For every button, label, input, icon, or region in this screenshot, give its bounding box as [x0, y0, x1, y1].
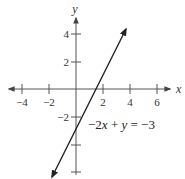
y-tick-label: 4: [64, 28, 70, 40]
x-tick-label: 6: [154, 96, 160, 108]
plotted-line: [52, 29, 126, 177]
x-tick-label: 4: [127, 96, 133, 108]
x-tick-label: −4: [16, 96, 28, 108]
x-tick-label: 2: [100, 96, 106, 108]
equation-label: −2x + y = −3: [88, 117, 155, 132]
y-tick-label: 2: [64, 56, 70, 68]
x-tick-label: −2: [43, 96, 55, 108]
y-tick-label: −2: [57, 111, 69, 123]
x-axis-label: x: [175, 82, 182, 96]
coordinate-graph: −4 −2 2 4 6 4 2 −2 x y −2x + y = −3: [0, 0, 185, 179]
y-axis-label: y: [71, 2, 78, 16]
